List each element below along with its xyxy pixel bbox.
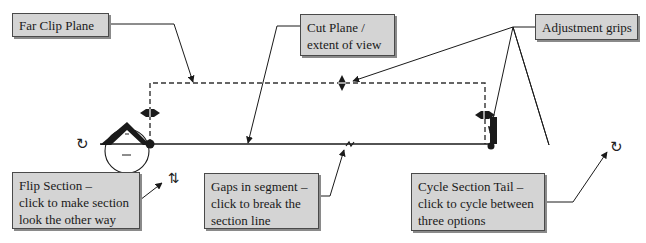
callout-far-clip-plane: Far Clip Plane (12, 13, 109, 37)
cycle-left-icon[interactable]: ↻ (76, 135, 89, 153)
leader-cut-plane (248, 26, 300, 143)
callout-text: Gaps in segment – (211, 178, 312, 195)
callout-text: Far Clip Plane (19, 17, 102, 34)
callout-cut-plane: Cut Plane / extent of view (300, 14, 395, 56)
callout-text: click to cycle between (418, 195, 538, 212)
section-head[interactable] (100, 122, 155, 173)
callout-text: click to make section (19, 194, 133, 211)
far-clip-extent (150, 83, 485, 144)
leader-flip (140, 183, 162, 200)
callout-flip-section: Flip Section – click to make section loo… (12, 172, 140, 229)
callout-text: three options (418, 212, 538, 229)
callout-text: look the other way (19, 211, 133, 228)
leader-cycle (545, 152, 607, 202)
callout-cycle-section-tail: Cycle Section Tail – click to cycle betw… (411, 173, 545, 231)
grip-top[interactable] (338, 75, 346, 91)
flip-section-icon[interactable]: ⇅ (168, 170, 180, 186)
leader-adjustment-2b (513, 27, 549, 145)
gap-break-mark (346, 142, 354, 146)
callout-gaps-in-segment: Gaps in segment – click to break the sec… (204, 173, 319, 229)
callout-adjustment-grips: Adjustment grips (535, 14, 638, 40)
callout-text: Cut Plane / (307, 19, 388, 36)
leader-gaps (319, 150, 344, 196)
leader-adjustment-3 (490, 27, 513, 133)
callout-text: Flip Section – (19, 177, 133, 194)
grip-left[interactable] (140, 109, 160, 117)
callout-text: Cycle Section Tail – (418, 178, 538, 195)
callout-text: Adjustment grips (542, 19, 631, 36)
callout-text: click to break the (211, 195, 312, 212)
leader-far-clip (109, 24, 193, 82)
cycle-right-icon[interactable]: ↻ (610, 138, 623, 156)
callout-text: extent of view (307, 36, 388, 53)
callout-text: section line (211, 212, 312, 229)
